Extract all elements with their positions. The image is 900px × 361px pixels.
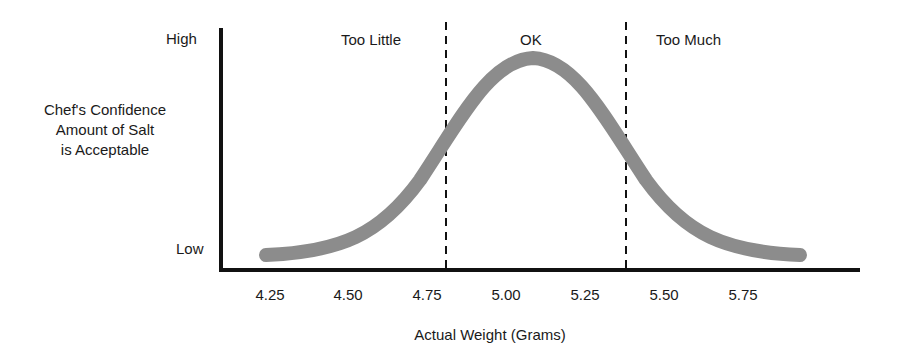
y-label-line-2: Amount of Salt (20, 120, 190, 140)
chart-canvas (0, 0, 900, 361)
x-tick: 5.75 (728, 286, 757, 303)
x-tick: 4.75 (412, 286, 441, 303)
region-label-too-little: Too Little (341, 31, 401, 48)
y-label-line-1: Chef's Confidence (20, 100, 190, 120)
x-tick: 4.25 (255, 286, 284, 303)
x-tick: 4.50 (333, 286, 362, 303)
y-tick-low: Low (176, 240, 204, 257)
y-label-line-3: is Acceptable (20, 140, 190, 160)
confidence-curve (266, 58, 800, 255)
x-tick: 5.00 (491, 286, 520, 303)
y-axis-label: Chef's Confidence Amount of Salt is Acce… (20, 100, 190, 160)
x-tick: 5.50 (649, 286, 678, 303)
region-label-ok: OK (520, 31, 542, 48)
y-tick-high: High (166, 30, 197, 47)
x-tick: 5.25 (570, 286, 599, 303)
region-label-too-much: Too Much (656, 31, 721, 48)
x-axis-label: Actual Weight (Grams) (0, 326, 900, 343)
